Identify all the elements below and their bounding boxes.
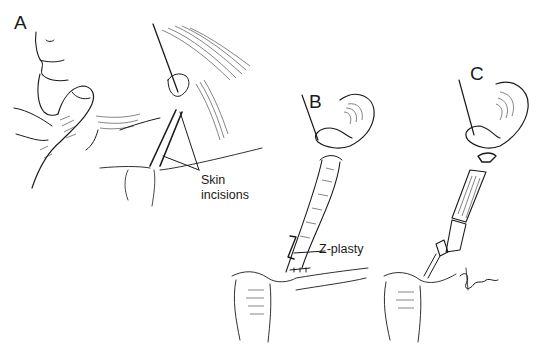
panel-label-c: C <box>470 64 484 83</box>
panel-b-drawing <box>232 94 374 342</box>
skin-incisions-line1: Skin <box>201 173 249 188</box>
skin-incisions-line2: incisions <box>201 188 249 203</box>
illustration-drawing <box>0 0 550 353</box>
medical-illustration: A B C Skin incisions Z-plasty <box>0 0 550 353</box>
artist-signature <box>460 268 498 290</box>
skin-incisions-label: Skin incisions <box>201 173 249 203</box>
panel-label-b: B <box>309 92 322 111</box>
panel-label-a: A <box>14 13 27 32</box>
z-plasty-label: Z-plasty <box>319 242 363 257</box>
panel-a-face-drawing <box>14 32 140 188</box>
panel-c-drawing <box>384 80 528 342</box>
